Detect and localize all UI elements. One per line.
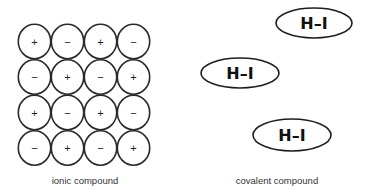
cation: + bbox=[84, 24, 116, 58]
minus-sign: − bbox=[97, 71, 103, 83]
minus-sign: − bbox=[64, 107, 70, 119]
diagram-canvas: +−+−−+−++−+−−+−+ ionic compound H–I H–I … bbox=[0, 0, 370, 193]
anion: − bbox=[18, 60, 50, 94]
anion: − bbox=[18, 131, 50, 165]
minus-sign: − bbox=[97, 142, 103, 154]
ionic-compound-label: ionic compound bbox=[52, 175, 119, 186]
covalent-molecule: H–I bbox=[276, 8, 352, 38]
anion: − bbox=[117, 24, 149, 58]
plus-sign: + bbox=[31, 36, 37, 48]
minus-sign: − bbox=[130, 107, 136, 119]
cation: + bbox=[51, 60, 83, 94]
covalent-molecule: H–I bbox=[253, 119, 331, 151]
plus-sign: + bbox=[64, 71, 70, 83]
anion: − bbox=[51, 24, 83, 58]
cation: + bbox=[84, 95, 116, 129]
plus-sign: + bbox=[130, 71, 136, 83]
minus-sign: − bbox=[130, 36, 136, 48]
covalent-molecule: H–I bbox=[201, 58, 279, 88]
molecule-formula: H–I bbox=[300, 14, 327, 33]
plus-sign: + bbox=[130, 142, 136, 154]
molecule-formula: H–I bbox=[278, 126, 305, 145]
minus-sign: − bbox=[31, 142, 37, 154]
minus-sign: − bbox=[31, 71, 37, 83]
plus-sign: + bbox=[97, 107, 103, 119]
anion: − bbox=[117, 95, 149, 129]
cation: + bbox=[117, 60, 149, 94]
ionic-lattice: +−+−−+−++−+−−+−+ bbox=[18, 24, 149, 165]
anion: − bbox=[51, 95, 83, 129]
cation: + bbox=[51, 131, 83, 165]
cation: + bbox=[117, 131, 149, 165]
cation: + bbox=[18, 95, 50, 129]
anion: − bbox=[84, 131, 116, 165]
plus-sign: + bbox=[97, 36, 103, 48]
minus-sign: − bbox=[64, 36, 70, 48]
molecule-formula: H–I bbox=[226, 64, 253, 83]
covalent-compound-label: covalent compound bbox=[236, 175, 318, 186]
plus-sign: + bbox=[31, 107, 37, 119]
plus-sign: + bbox=[64, 142, 70, 154]
anion: − bbox=[84, 60, 116, 94]
cation: + bbox=[18, 24, 50, 58]
